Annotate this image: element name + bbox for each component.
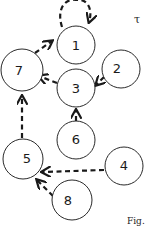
node-6: 6 <box>57 121 95 159</box>
figure-caption: Fig. <box>127 216 145 226</box>
node-4: 4 <box>105 147 143 185</box>
svg-text:1: 1 <box>72 38 80 53</box>
svg-text:2: 2 <box>113 61 121 76</box>
node-8: 8 <box>52 180 92 220</box>
edge-4-to-5 <box>42 170 104 172</box>
edge-2-to-3 <box>96 77 104 85</box>
svg-text:3: 3 <box>72 81 80 96</box>
nodes: 1 2 3 4 5 6 7 8 <box>1 26 143 220</box>
edge-8-to-5 <box>37 180 53 196</box>
svg-text:6: 6 <box>72 132 80 147</box>
edge-1-1-self-loop <box>60 0 90 27</box>
node-3: 3 <box>57 69 95 107</box>
node-7: 7 <box>1 49 43 91</box>
svg-text:8: 8 <box>64 193 72 208</box>
tau-symbol: τ <box>134 13 140 26</box>
node-2: 2 <box>102 50 140 88</box>
graph-diagram: 1 2 3 4 5 6 7 8 τ Fig. <box>0 0 146 226</box>
node-5: 5 <box>3 139 43 179</box>
edge-7-to-1 <box>35 41 52 53</box>
svg-text:5: 5 <box>23 151 31 166</box>
svg-text:7: 7 <box>15 63 23 78</box>
svg-text:4: 4 <box>120 158 128 173</box>
node-1: 1 <box>57 26 95 64</box>
